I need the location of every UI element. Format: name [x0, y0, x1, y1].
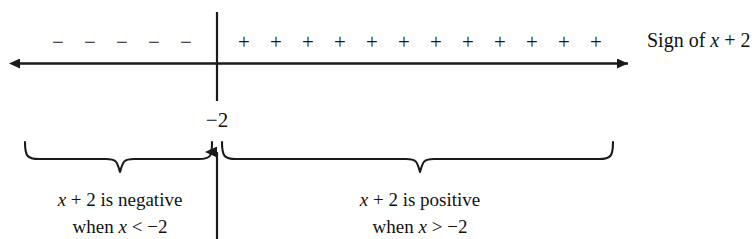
left-caption-variable-1: x [58, 189, 66, 210]
right-caption-line-2: when x > −2 [320, 213, 520, 239]
axis-label: Sign of x + 2 [647, 28, 751, 52]
right-caption-variable-1: x [360, 189, 368, 210]
left-caption-variable-2: x [119, 216, 127, 237]
axis-label-suffix: + 2 [719, 29, 750, 51]
right-caption-prefix-2: when [373, 216, 419, 237]
right-caption-rest-2: > −2 [427, 216, 467, 237]
axis-label-variable: x [710, 29, 719, 51]
left-caption-prefix-2: when [73, 216, 119, 237]
critical-point-label: −2 [193, 108, 241, 132]
left-caption-rest-2: < −2 [127, 216, 167, 237]
right-interval-caption: x + 2 is positive when x > −2 [320, 186, 520, 239]
left-caption-rest-1: + 2 is negative [66, 189, 182, 210]
left-brace-path [25, 142, 212, 172]
left-caption-line-2: when x < −2 [20, 213, 220, 239]
axis-label-prefix: Sign of [647, 29, 710, 51]
right-brace-path [222, 142, 613, 172]
right-caption-variable-2: x [419, 216, 427, 237]
right-caption-rest-1: + 2 is positive [368, 189, 480, 210]
sign-chart-figure: − − − − − + + + + + + + + + + + + Sign o… [0, 0, 754, 239]
right-caption-line-1: x + 2 is positive [320, 186, 520, 213]
left-interval-caption: x + 2 is negative when x < −2 [20, 186, 220, 239]
left-caption-line-1: x + 2 is negative [20, 186, 220, 213]
